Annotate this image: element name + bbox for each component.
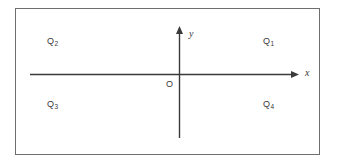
quadrant-label-q4: Q4	[263, 99, 274, 109]
quadrant-label-q1-text: Q	[263, 36, 270, 46]
origin-label: O	[166, 79, 173, 89]
y-axis-label: y	[189, 28, 193, 39]
quadrant-label-q4-text: Q	[263, 99, 270, 109]
quadrant-label-q4-subscript: 4	[271, 103, 275, 110]
x-axis-label: x	[305, 67, 309, 78]
quadrant-label-q3: Q3	[47, 99, 58, 109]
quadrant-label-q2-text: Q	[47, 36, 54, 46]
x-axis-arrowhead-icon	[291, 71, 299, 78]
quadrant-label-q3-subscript: 3	[55, 103, 59, 110]
quadrant-label-q2: Q2	[47, 36, 58, 46]
coordinate-plane-figure: Q2 Q1 Q3 Q4 y x O	[0, 0, 339, 162]
y-axis-arrowhead-icon	[176, 26, 183, 34]
quadrant-label-q2-subscript: 2	[55, 40, 59, 47]
quadrant-label-q1-subscript: 1	[271, 40, 275, 47]
quadrant-label-q1: Q1	[263, 36, 274, 46]
quadrant-label-q3-text: Q	[47, 99, 54, 109]
